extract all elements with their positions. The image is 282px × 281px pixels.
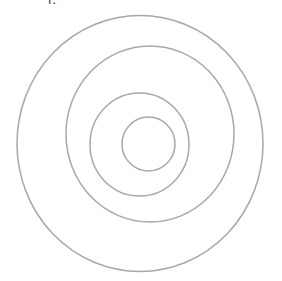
third-ring <box>90 93 189 196</box>
outer-ring <box>17 16 263 272</box>
inner-ring <box>122 117 175 171</box>
concentric-rings-diagram <box>0 0 282 281</box>
